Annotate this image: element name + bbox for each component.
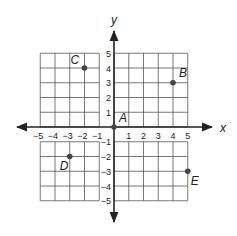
y-axis-label: y [110,13,118,27]
point-label-d: D [60,159,69,173]
point-c [82,65,88,71]
x-tick-labels: −5−4−3−2−112345 [33,131,190,141]
y-tick-label: −3 [101,167,111,177]
point-label-e: E [191,174,200,188]
point-label-a: A [118,111,127,125]
coordinate-plane: x y −5−4−3−2−112345 54321−1−2−3−4−5 ABCD… [0,0,237,236]
y-tick-label: −1 [101,137,111,147]
point-a [111,124,117,130]
x-tick-label: 2 [141,131,146,141]
x-tick-label: −3 [63,131,73,141]
point-label-b: B [179,66,187,80]
y-tick-label: −4 [101,182,111,192]
x-tick-label: −2 [77,131,87,141]
x-tick-label: 5 [185,131,190,141]
y-tick-label: 2 [106,93,111,103]
x-tick-label: −5 [33,131,43,141]
x-tick-label: 3 [156,131,161,141]
y-tick-label: 3 [106,78,111,88]
point-label-c: C [71,53,80,67]
x-axis-label: x [219,121,227,135]
y-tick-label: −5 [101,196,111,206]
x-tick-label: 1 [126,131,131,141]
x-tick-label: −4 [48,131,58,141]
point-e [185,168,191,174]
point-b [170,80,176,86]
x-tick-label: 4 [170,131,175,141]
y-tick-label: 5 [106,49,111,59]
y-tick-label: 4 [106,64,111,74]
points: ABCDE [60,53,200,188]
y-tick-label: −2 [101,152,111,162]
y-tick-label: 1 [106,108,111,118]
